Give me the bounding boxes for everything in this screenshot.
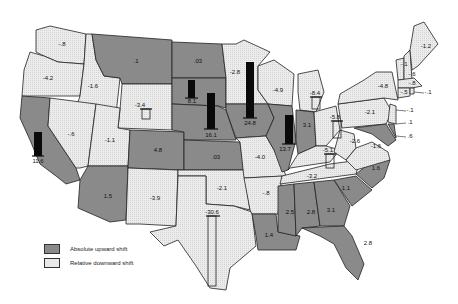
label-il: 13.7	[279, 146, 291, 152]
label-vt: -.1	[400, 61, 408, 67]
label-md: .6	[407, 133, 413, 139]
label-ky: -5.1	[323, 147, 334, 153]
label-oh: -5.8	[330, 114, 341, 120]
label-ct: -.5	[400, 89, 408, 95]
state-sd	[172, 78, 226, 108]
label-ar: -.8	[262, 190, 270, 196]
legend-label-downward: Relative downward shift	[70, 260, 133, 266]
label-wi: -4.9	[273, 87, 284, 93]
label-in: 3.1	[303, 122, 312, 128]
label-tx: -30.6	[205, 209, 219, 215]
label-ks: .03	[212, 154, 221, 160]
state-fl	[302, 226, 364, 280]
legend: Absolute upward shift Relative downward …	[44, 244, 133, 272]
label-nj: -.1	[406, 107, 414, 113]
label-ri: -.1	[424, 89, 432, 95]
legend-item-downward: Relative downward shift	[44, 258, 133, 268]
label-tn: -3.2	[307, 173, 318, 179]
label-ma: -.8	[408, 80, 416, 86]
label-mn: -2.8	[230, 69, 241, 75]
label-ca: 11.6	[32, 158, 44, 164]
label-sc: 1.1	[342, 185, 351, 191]
label-id: -1.6	[88, 83, 99, 89]
label-az: 1.5	[104, 193, 113, 199]
label-wv: -2.6	[350, 138, 361, 144]
label-sd: 8.1	[188, 98, 197, 104]
label-ia: 24.8	[244, 120, 256, 126]
state-ri	[410, 88, 414, 94]
label-nh: -.6	[408, 71, 416, 77]
legend-swatch-upward	[44, 244, 60, 254]
label-ut: -1.1	[105, 137, 116, 143]
label-va: -1.6	[371, 143, 382, 149]
state-ny	[338, 72, 398, 104]
label-ny: -4.8	[378, 83, 389, 89]
label-me: -1.2	[421, 43, 432, 49]
legend-swatch-downward	[44, 258, 60, 268]
label-nd: .03	[194, 58, 203, 64]
label-mo: -4.0	[255, 154, 266, 160]
label-nv: -.6	[67, 131, 75, 137]
label-al: 2.8	[307, 209, 316, 215]
label-mt: .1	[133, 58, 139, 64]
label-la: 1.4	[265, 232, 274, 238]
legend-label-upward: Absolute upward shift	[70, 246, 127, 252]
label-or: -4.2	[43, 75, 54, 81]
label-co: 4.8	[154, 147, 163, 153]
legend-item-upward: Absolute upward shift	[44, 244, 133, 254]
label-ga: 3.1	[327, 207, 336, 213]
label-fl: 2.8	[364, 240, 373, 246]
state-oh	[314, 106, 340, 146]
label-de: .1	[407, 119, 413, 125]
label-nc: 1.6	[372, 165, 381, 171]
label-ok: -2.1	[217, 185, 228, 191]
label-ne: 16.1	[205, 132, 217, 138]
label-wa: -.8	[58, 41, 66, 47]
label-ms: 2.5	[286, 209, 295, 215]
label-wy: -3.4	[135, 102, 146, 108]
label-nm: -3.9	[150, 195, 161, 201]
label-pa: -2.1	[365, 109, 376, 115]
label-mi: -8.4	[310, 90, 321, 96]
